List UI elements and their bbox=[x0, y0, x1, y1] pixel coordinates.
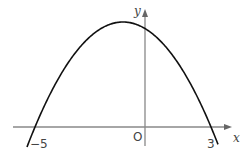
x-axis-label: x bbox=[233, 132, 240, 144]
root-left-label: −5 bbox=[30, 138, 48, 150]
y-axis-label: y bbox=[134, 5, 141, 17]
origin-label: O bbox=[133, 131, 142, 143]
y-axis-arrow-icon bbox=[142, 9, 148, 17]
root-right-label: 3 bbox=[207, 138, 215, 150]
parabola-curve bbox=[27, 22, 218, 147]
parabola-graph bbox=[0, 0, 243, 153]
x-axis-arrow-icon bbox=[224, 124, 232, 130]
